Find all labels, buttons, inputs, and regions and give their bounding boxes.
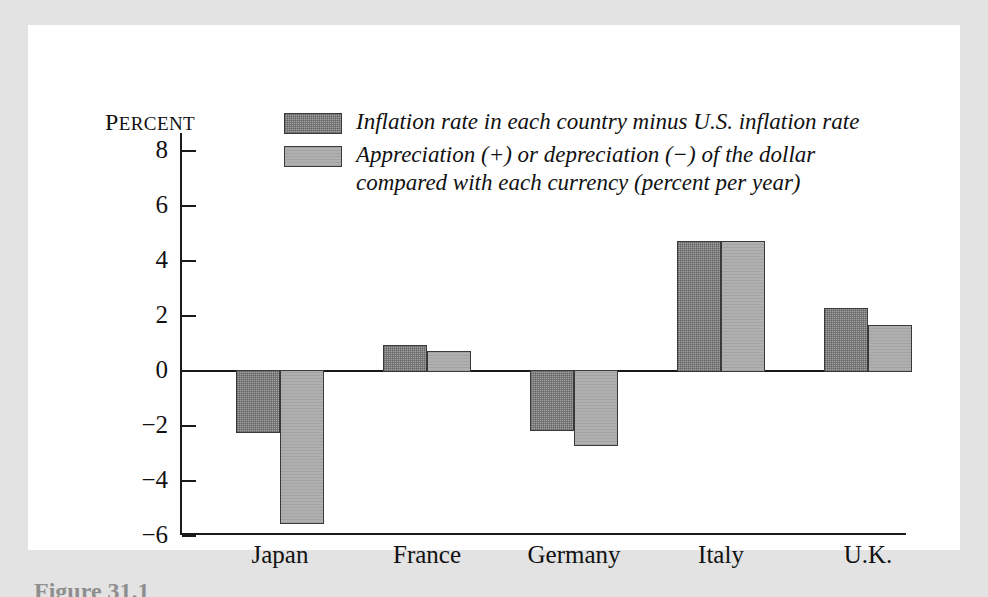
y-tick-label: −2 (141, 411, 168, 439)
y-tick-mark (182, 480, 196, 482)
x-label-france: France (393, 541, 461, 569)
plot-area: PERCENT 86420−2−4−6 JapanFranceGermanyIt… (180, 133, 906, 535)
y-tick-label: 8 (156, 136, 169, 164)
y-tick-label: 4 (156, 246, 169, 274)
bar-italy-series-1 (677, 241, 721, 372)
x-label-italy: Italy (698, 541, 744, 569)
bar-uk-series-1 (824, 308, 868, 372)
chart-panel: Inflation rate in each country minus U.S… (28, 25, 960, 550)
y-tick-mark (182, 425, 196, 427)
bar-japan-series-1 (236, 370, 280, 433)
bar-france-series-2 (427, 351, 471, 372)
y-tick-label: 6 (156, 191, 169, 219)
figure-caption: Figure 31.1 (34, 578, 150, 597)
y-tick-mark (182, 260, 196, 262)
legend-swatch-series-1 (284, 113, 342, 134)
figure-root: Inflation rate in each country minus U.S… (0, 0, 988, 597)
bar-uk-series-2 (868, 325, 912, 372)
bar-group (236, 133, 324, 535)
legend-item-series-1: Inflation rate in each country minus U.S… (284, 108, 859, 136)
y-tick-label: 2 (156, 301, 169, 329)
bar-group (824, 133, 912, 535)
bar-germany-series-1 (530, 370, 574, 431)
bar-germany-series-2 (574, 370, 618, 446)
y-tick-mark (182, 150, 196, 152)
y-tick-label: −6 (141, 521, 168, 549)
y-tick-mark (182, 205, 196, 207)
bar-france-series-1 (383, 345, 427, 372)
y-axis-line (180, 133, 182, 535)
x-label-germany: Germany (527, 541, 620, 569)
bar-group (530, 133, 618, 535)
y-tick-mark (182, 535, 196, 537)
y-tick-label: −4 (141, 466, 168, 494)
bar-japan-series-2 (280, 370, 324, 524)
x-label-japan: Japan (252, 541, 309, 569)
bar-italy-series-2 (721, 241, 765, 372)
legend-label-series-1: Inflation rate in each country minus U.S… (356, 108, 859, 136)
y-tick-label: 0 (156, 356, 169, 384)
bar-group (677, 133, 765, 535)
y-axis-title: PERCENT (105, 109, 195, 136)
bar-group (383, 133, 471, 535)
x-label-uk: U.K. (844, 541, 893, 569)
y-tick-mark (182, 370, 196, 372)
y-tick-mark (182, 315, 196, 317)
